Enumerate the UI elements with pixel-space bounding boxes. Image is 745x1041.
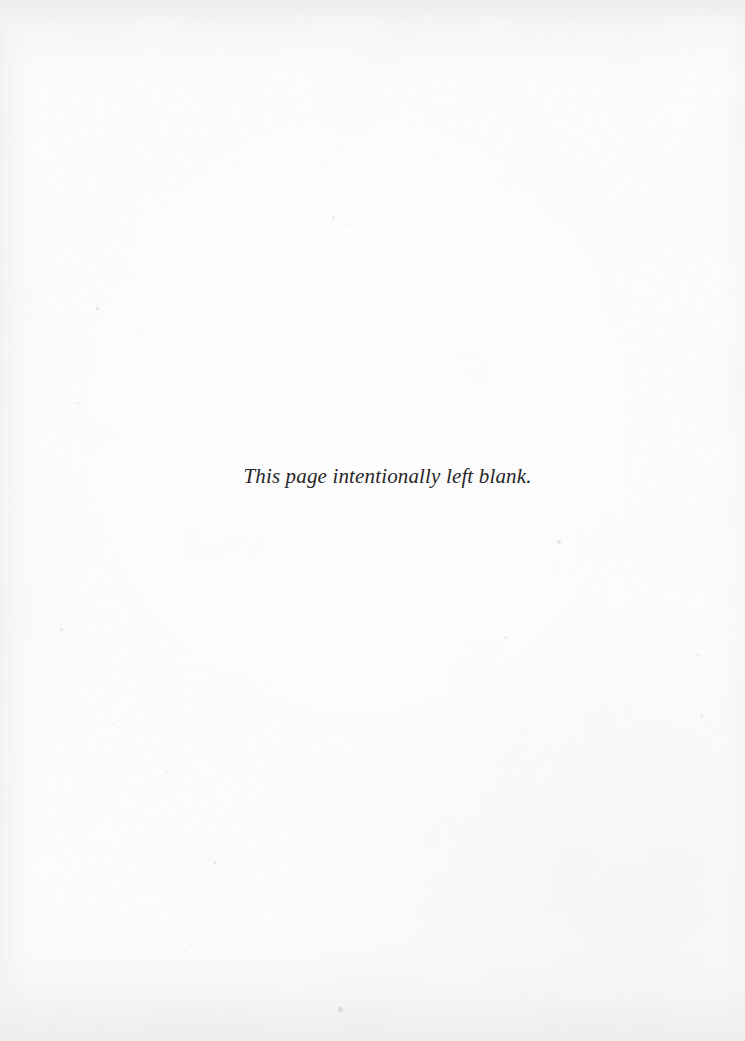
scanned-page: This page intentionally left blank.: [0, 0, 745, 1041]
paper-background: [0, 0, 745, 1041]
